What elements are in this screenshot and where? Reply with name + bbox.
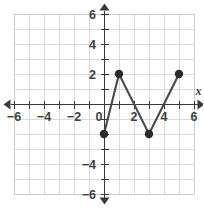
data-point-marker [145,130,153,138]
y-axis-top-arrow [100,4,110,11]
x-tick-label: 6 [191,110,198,124]
y-tick-label: 2 [89,68,96,82]
x-tick-label: 4 [161,110,168,124]
x-axis-name-label: x [195,84,202,98]
x-axis-right-arrow [198,100,204,110]
axes [4,4,204,205]
y-tick-label: −6 [82,188,96,202]
origin-label: 0 [96,110,103,124]
x-tick-label: −6 [7,110,21,124]
y-tick-label: 6 [89,8,96,22]
x-tick-label: −4 [37,110,51,124]
origin-zero-label: 0 [96,110,103,124]
x-tick-label: −2 [67,110,81,124]
coordinate-plane-figure: −6−4−2246 642−4−6 0 x [0,0,203,209]
x-axis-name: x [195,84,202,98]
graph-canvas: −6−4−2246 642−4−6 0 x [0,0,203,209]
y-axis-bottom-arrow [100,198,110,205]
data-point-marker [100,130,108,138]
x-tick-label: 2 [131,110,138,124]
y-tick-label: −4 [82,158,96,172]
x-axis-left-arrow [4,100,11,110]
data-point-marker [175,70,183,78]
y-tick-label: 4 [89,38,96,52]
data-point-marker [115,70,123,78]
